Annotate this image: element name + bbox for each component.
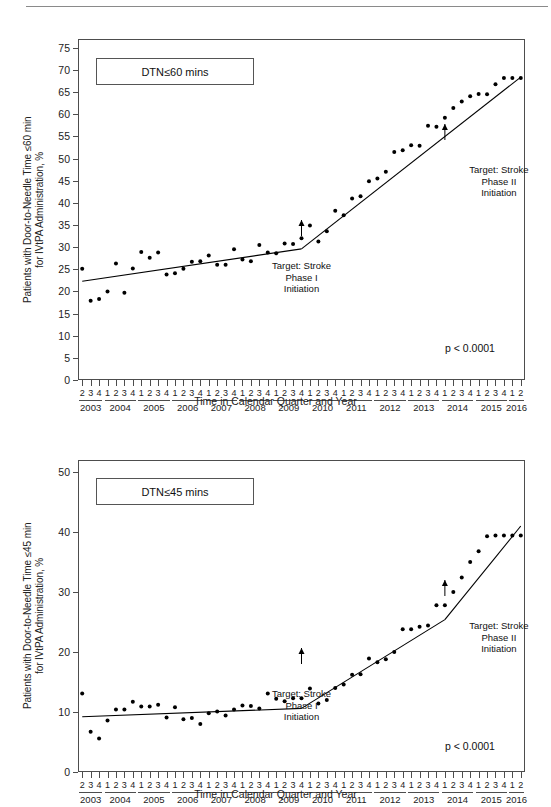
p-value-top: p < 0.0001 [445, 342, 495, 354]
data-point [139, 250, 143, 254]
data-point [139, 705, 143, 709]
data-point [266, 250, 270, 254]
data-point [291, 242, 295, 246]
data-point [165, 273, 169, 277]
data-point [460, 576, 464, 580]
page-top-rule [26, 6, 548, 7]
data-point [367, 657, 371, 661]
data-point [392, 150, 396, 154]
data-point [485, 92, 489, 96]
data-point [181, 717, 185, 721]
data-point [198, 259, 202, 263]
data-point [401, 148, 405, 152]
data-point [266, 691, 270, 695]
data-point [173, 705, 177, 709]
data-point [122, 291, 126, 295]
data-point [190, 716, 194, 720]
data-point [224, 263, 228, 267]
data-point [165, 715, 169, 719]
data-point [519, 534, 523, 538]
data-point [342, 213, 346, 217]
data-point [148, 256, 152, 260]
data-point [89, 730, 93, 734]
data-point [249, 259, 253, 263]
data-point [392, 650, 396, 654]
plot-svg-top [0, 14, 551, 414]
data-point [207, 711, 211, 715]
data-point [89, 299, 93, 303]
annotation-phase-1-top: Target: Stroke Phase I Initiation [272, 260, 331, 295]
chart-dtn60: Patients with Door-to-Needle Time ≤60 mi… [0, 14, 551, 414]
data-point [510, 76, 514, 80]
data-point [325, 229, 329, 233]
data-point [80, 267, 84, 271]
data-point [477, 549, 481, 553]
data-point [426, 624, 430, 628]
data-point [215, 263, 219, 267]
data-point [519, 76, 523, 80]
data-point [409, 627, 413, 631]
data-point [131, 266, 135, 270]
data-point [375, 177, 379, 181]
data-point [156, 250, 160, 254]
data-point [359, 194, 363, 198]
data-point [106, 718, 110, 722]
data-point [460, 99, 464, 103]
data-point [257, 706, 261, 710]
data-point [156, 703, 160, 707]
data-point [434, 603, 438, 607]
data-point [468, 94, 472, 98]
data-point [190, 260, 194, 264]
data-point [232, 708, 236, 712]
data-point [350, 673, 354, 677]
data-point [300, 236, 304, 240]
data-point [434, 125, 438, 129]
data-point [350, 196, 354, 200]
data-point [418, 144, 422, 148]
x-axis-title-top: Time in Calendar Quarter and Year [0, 395, 551, 407]
data-point [510, 534, 514, 538]
data-point [215, 709, 219, 713]
data-point [426, 124, 430, 128]
data-point [359, 672, 363, 676]
data-point [181, 267, 185, 271]
data-point [502, 76, 506, 80]
data-point [493, 534, 497, 538]
data-point [409, 143, 413, 147]
data-point [384, 657, 388, 661]
data-point [451, 590, 455, 594]
data-point [148, 705, 152, 709]
data-point [477, 92, 481, 96]
data-point [198, 722, 202, 726]
data-point [97, 297, 101, 301]
data-point [173, 271, 177, 275]
data-point [443, 603, 447, 607]
data-point [485, 534, 489, 538]
data-point [240, 703, 244, 707]
annotation-phase-2-top: Target: Stroke Phase II Initiation [469, 164, 528, 199]
data-point [367, 179, 371, 183]
data-point [207, 254, 211, 258]
data-point [240, 258, 244, 262]
data-point [418, 625, 422, 629]
data-point [316, 239, 320, 243]
data-point [333, 686, 337, 690]
annotation-arrow-head [299, 648, 305, 654]
annotation-arrow-head [442, 124, 448, 130]
data-point [401, 627, 405, 631]
x-axis-title-bottom: Time in Calendar Quarter and Year [0, 788, 551, 800]
data-point [106, 289, 110, 293]
annotation-arrow-head [442, 580, 448, 586]
data-point [249, 704, 253, 708]
data-point [224, 714, 228, 718]
data-point [114, 708, 118, 712]
data-point [333, 209, 337, 213]
data-point [122, 708, 126, 712]
panel-key-dtn45: DTN≤45 mins [96, 478, 254, 505]
trend-line-segment [445, 526, 521, 620]
data-point [308, 223, 312, 227]
annotation-phase-1-bottom: Target: Stroke Phase I Initiation [272, 688, 331, 723]
trend-line-segment [302, 77, 521, 249]
panel-key-dtn60: DTN≤60 mins [96, 58, 254, 85]
annotation-phase-2-bottom: Target: Stroke Phase II Initiation [469, 620, 528, 655]
